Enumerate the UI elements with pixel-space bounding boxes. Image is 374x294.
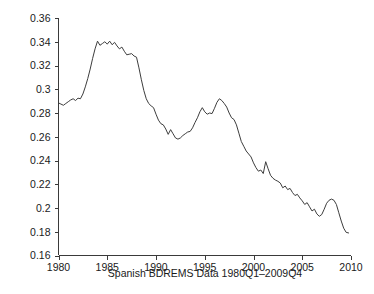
y-axis-tick-group: 0.160.180.20.220.240.260.280.30.320.340.… <box>30 12 58 261</box>
chart-figure: 0.160.180.20.220.240.260.280.30.320.340.… <box>0 0 374 294</box>
y-tick-label: 0.22 <box>30 178 51 190</box>
y-tick-label: 0.18 <box>30 226 51 238</box>
x-axis-title: Spanish BDREMS Data 1980Q1–2009Q4 <box>108 267 303 279</box>
x-tick-label: 1980 <box>47 261 71 273</box>
y-tick-label: 0.16 <box>30 249 51 261</box>
y-tick-label: 0.2 <box>36 202 51 214</box>
x-tick-label: 2010 <box>339 261 363 273</box>
y-tick-label: 0.34 <box>30 36 51 48</box>
y-tick-label: 0.28 <box>30 107 51 119</box>
line-chart: 0.160.180.20.220.240.260.280.30.320.340.… <box>0 0 374 294</box>
data-series-line <box>59 41 349 233</box>
y-tick-label: 0.24 <box>30 154 51 166</box>
y-tick-label: 0.26 <box>30 131 51 143</box>
y-tick-label: 0.3 <box>36 83 51 95</box>
y-tick-label: 0.32 <box>30 59 51 71</box>
y-tick-label: 0.36 <box>30 12 51 24</box>
